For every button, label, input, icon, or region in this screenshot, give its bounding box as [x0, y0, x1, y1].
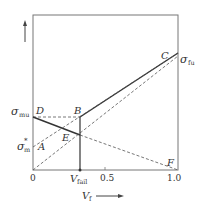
- up-arrow-icon: [23, 20, 27, 42]
- tick-label-1.0: 1.0: [167, 173, 182, 183]
- svg-text:fail: fail: [77, 178, 87, 186]
- svg-text:m: m: [24, 146, 30, 154]
- line-d-e: [33, 117, 80, 135]
- plot-frame: [33, 15, 178, 170]
- label-sigma-fu: σ fu: [180, 53, 195, 67]
- line-o-c: [33, 56, 178, 170]
- label-v-f: V f: [82, 190, 92, 203]
- point-label-b: B: [73, 105, 81, 116]
- right-arrow-icon: [96, 194, 124, 198]
- point-label-e: E: [61, 132, 70, 143]
- point-label-c: C: [161, 50, 169, 61]
- line-e-f: [80, 135, 178, 170]
- svg-text:σ: σ: [11, 105, 19, 118]
- svg-text:fu: fu: [188, 59, 195, 67]
- diagram-canvas: D B C E A F σ mu σ m * σ fu 0 0.5 1.0 V …: [0, 0, 205, 211]
- tick-label-0.5: 0.5: [100, 173, 115, 183]
- label-v-fail: V fail: [70, 173, 87, 186]
- svg-text:mu: mu: [19, 111, 29, 119]
- svg-text:σ: σ: [180, 53, 188, 66]
- svg-text:*: *: [24, 137, 28, 145]
- vfail-marker: [79, 169, 82, 172]
- label-sigma-m-star: σ m *: [17, 137, 30, 154]
- svg-text:f: f: [89, 195, 92, 203]
- tick-label-0: 0: [30, 173, 36, 183]
- point-label-a: A: [37, 141, 45, 152]
- point-label-d: D: [35, 105, 44, 116]
- point-label-f: F: [166, 157, 175, 168]
- label-sigma-mu: σ mu: [11, 105, 29, 119]
- line-a-c: [33, 53, 178, 147]
